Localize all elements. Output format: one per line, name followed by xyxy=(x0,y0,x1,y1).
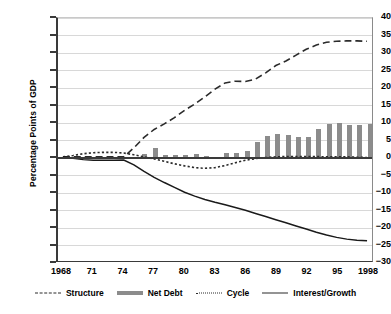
y-axis-tick-label: −20 xyxy=(347,222,391,231)
y-axis-tick xyxy=(50,51,56,53)
legend-label: Net Debt xyxy=(148,288,183,298)
legend-label: Interest/Growth xyxy=(293,288,356,298)
y-axis-tick xyxy=(50,244,56,246)
line-cycle xyxy=(63,41,367,157)
y-axis-tick-label: −30 xyxy=(347,257,391,266)
y-axis-tick-label: −25 xyxy=(347,240,391,249)
legend-swatch-structure-icon xyxy=(35,289,61,297)
y-axis-tick xyxy=(50,16,56,18)
y-axis-tick xyxy=(50,139,56,141)
y-axis-tick-label: 30 xyxy=(347,47,391,56)
legend-swatch-interest-icon xyxy=(262,289,288,297)
legend-label: Structure xyxy=(66,288,104,298)
legend-item-netdebt: Net Debt xyxy=(117,288,183,298)
x-axis-tick-label: 77 xyxy=(148,266,158,276)
x-axis-tick-label: 92 xyxy=(302,266,312,276)
y-axis-tick-label: 10 xyxy=(347,117,391,126)
x-axis-tick-label: 95 xyxy=(332,266,342,276)
x-axis-tick-label: 71 xyxy=(87,266,97,276)
zero-line xyxy=(58,157,372,159)
x-axis-tick-label: 86 xyxy=(240,266,250,276)
x-axis-tick-label: 1998 xyxy=(358,266,378,276)
legend-item-structure: Structure xyxy=(35,288,104,298)
legend-label: Cycle xyxy=(227,288,250,298)
x-axis-tick-label: 1968 xyxy=(51,266,71,276)
y-axis-tick-label: −5 xyxy=(347,170,391,179)
line-interest-growth xyxy=(63,157,367,241)
x-axis-tick-label: 80 xyxy=(179,266,189,276)
x-axis-tick-label: 83 xyxy=(209,266,219,276)
y-axis-tick xyxy=(50,156,56,158)
y-axis-tick-label: 25 xyxy=(347,65,391,74)
y-axis-tick xyxy=(50,86,56,88)
y-axis-tick-label: 15 xyxy=(347,100,391,109)
y-axis-tick xyxy=(50,174,56,176)
y-axis-tick xyxy=(50,226,56,228)
y-axis-tick-label: 5 xyxy=(347,135,391,144)
y-axis-tick-label: 35 xyxy=(347,30,391,39)
y-axis-tick xyxy=(50,104,56,106)
y-axis-tick-label: 20 xyxy=(347,82,391,91)
x-axis-tick-label: 74 xyxy=(117,266,127,276)
chart-container: Percentage Points of GDP 196871747780838… xyxy=(0,0,391,314)
y-axis-tick xyxy=(50,209,56,211)
y-axis-tick xyxy=(50,121,56,123)
chart-legend: StructureNet DebtCycleInterest/Growth xyxy=(0,288,391,298)
y-axis-tick xyxy=(50,191,56,193)
x-axis-tick-label: 89 xyxy=(271,266,281,276)
y-axis-tick-labels xyxy=(0,0,48,245)
y-axis-tick-label: −10 xyxy=(347,187,391,196)
plot-area xyxy=(56,17,373,262)
y-axis-tick xyxy=(50,261,56,263)
legend-item-cycle: Cycle xyxy=(196,288,250,298)
legend-swatch-netdebt-icon xyxy=(117,289,143,297)
y-axis-tick-label: −15 xyxy=(347,205,391,214)
legend-item-interest: Interest/Growth xyxy=(262,288,356,298)
lines-layer xyxy=(58,18,372,261)
y-axis-tick xyxy=(50,69,56,71)
y-axis-tick-label: 40 xyxy=(347,12,391,21)
legend-swatch-cycle-icon xyxy=(196,289,222,297)
y-axis-tick xyxy=(50,34,56,36)
